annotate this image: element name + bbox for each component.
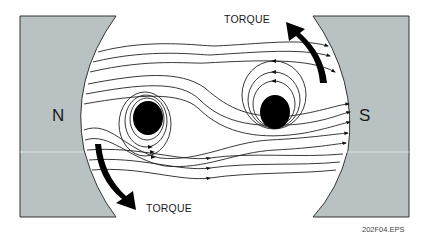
torque-label-bottom: TORQUE <box>146 202 192 214</box>
south-pole-label: S <box>359 106 370 125</box>
torque-label-top: TORQUE <box>224 13 270 25</box>
north-pole-piece <box>20 16 116 217</box>
motor-torque-diagram: N S TORQUE TORQUE 202F04.EPS <box>0 0 429 238</box>
field-lines <box>84 42 350 179</box>
north-pole-label: N <box>52 106 64 125</box>
right-conductor <box>260 95 290 129</box>
left-conductor <box>133 101 163 135</box>
figure-id-label: 202F04.EPS <box>362 225 405 234</box>
